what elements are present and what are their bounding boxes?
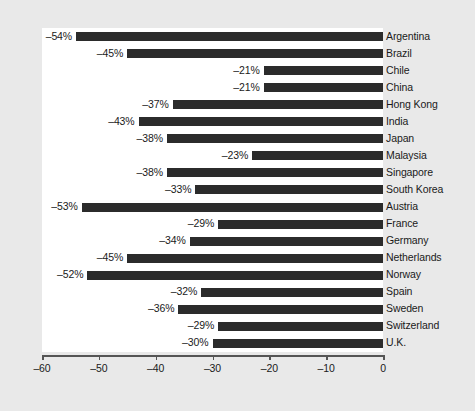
bar-rect: [139, 117, 383, 126]
bar-row: –29%Switzerland: [42, 318, 475, 335]
bar-category-label: U.K.: [386, 334, 406, 351]
bar-category-label: Malaysia: [386, 147, 427, 164]
x-axis-tick-mark: [269, 355, 271, 360]
x-axis-tick-label: –40: [147, 362, 164, 374]
bar-category-label: Switzerland: [386, 317, 439, 334]
bar-rect: [127, 254, 383, 263]
bar-rect: [264, 66, 383, 75]
bar-value-label: –21%: [216, 79, 260, 96]
bar-row: –34%Germany: [42, 233, 475, 250]
bar-value-label: –29%: [170, 215, 214, 232]
bar-rect: [167, 168, 383, 177]
x-axis-tick-mark: [42, 355, 44, 360]
bar-rect: [190, 237, 383, 246]
bar-rect: [213, 339, 384, 348]
bar-row: –53%Austria: [42, 199, 475, 216]
bar-rect: [178, 305, 383, 314]
bar-rect: [76, 32, 383, 41]
bar-value-label: –34%: [142, 232, 186, 249]
bar-row: –52%Norway: [42, 267, 475, 284]
bar-category-label: Spain: [386, 283, 412, 300]
bar-row: –21%China: [42, 79, 475, 96]
bar-rect: [218, 220, 383, 229]
bar-row: –45%Brazil: [42, 45, 475, 62]
x-axis-tick-label: –30: [204, 362, 221, 374]
bar-rect: [264, 83, 383, 92]
bar-value-label: –45%: [79, 249, 123, 266]
bar-row: –30%U.K.: [42, 335, 475, 352]
bar-value-label: –23%: [204, 147, 248, 164]
bar-category-label: Sweden: [386, 300, 423, 317]
bar-row: –36%Sweden: [42, 301, 475, 318]
bar-chart-figure: –54%Argentina–45%Brazil–21%Chile–21%Chin…: [0, 0, 475, 411]
bar-category-label: Norway: [386, 266, 421, 283]
bar-rect: [173, 100, 383, 109]
bar-category-label: Singapore: [386, 164, 433, 181]
bar-value-label: –45%: [79, 45, 123, 62]
bar-row: –21%Chile: [42, 62, 475, 79]
x-axis-tick-mark: [326, 355, 328, 360]
bar-category-label: China: [386, 79, 413, 96]
bar-row: –38%Japan: [42, 130, 475, 147]
bar-rect: [167, 134, 383, 143]
x-axis-tick-label: –10: [318, 362, 335, 374]
bar-rect: [252, 151, 383, 160]
bar-row: –54%Argentina: [42, 28, 475, 45]
bar-rows-container: –54%Argentina–45%Brazil–21%Chile–21%Chin…: [42, 28, 475, 352]
bar-category-label: South Korea: [386, 181, 443, 198]
bar-value-label: –21%: [216, 62, 260, 79]
x-axis-tick-mark: [213, 355, 215, 360]
bar-row: –38%Singapore: [42, 164, 475, 181]
bar-row: –29%France: [42, 216, 475, 233]
bar-rect: [87, 271, 383, 280]
bar-rect: [195, 185, 383, 194]
bar-row: –45%Netherlands: [42, 250, 475, 267]
bar-rect: [218, 322, 383, 331]
bar-category-label: Chile: [386, 62, 409, 79]
x-axis-tick-mark: [383, 355, 385, 360]
bar-category-label: France: [386, 215, 418, 232]
bar-category-label: India: [386, 113, 408, 130]
x-axis-tick-mark: [99, 355, 101, 360]
bar-category-label: Argentina: [386, 28, 430, 45]
bar-category-label: Germany: [386, 232, 428, 249]
bar-value-label: –54%: [28, 28, 72, 45]
bar-value-label: –29%: [170, 317, 214, 334]
bar-value-label: –36%: [130, 300, 174, 317]
bar-row: –37%Hong Kong: [42, 96, 475, 113]
bar-row: –32%Spain: [42, 284, 475, 301]
bar-value-label: –32%: [153, 283, 197, 300]
bar-row: –43%India: [42, 113, 475, 130]
x-axis-tick-label: 0: [380, 362, 386, 374]
bar-value-label: –53%: [34, 198, 78, 215]
bar-category-label: Brazil: [386, 45, 412, 62]
bar-rect: [82, 203, 383, 212]
bar-category-label: Austria: [386, 198, 418, 215]
bar-value-label: –33%: [147, 181, 191, 198]
x-axis-tick-label: –50: [90, 362, 107, 374]
bar-rect: [201, 288, 383, 297]
x-axis-tick-mark: [156, 355, 158, 360]
x-axis-tick-label: –60: [33, 362, 50, 374]
bar-value-label: –38%: [119, 130, 163, 147]
bar-row: –33%South Korea: [42, 181, 475, 198]
bar-value-label: –37%: [125, 96, 169, 113]
bar-value-label: –38%: [119, 164, 163, 181]
bar-value-label: –52%: [39, 266, 83, 283]
bar-category-label: Hong Kong: [386, 96, 438, 113]
bar-category-label: Netherlands: [386, 249, 442, 266]
x-axis-tick-label: –20: [261, 362, 278, 374]
bar-value-label: –43%: [91, 113, 135, 130]
bar-value-label: –30%: [165, 334, 209, 351]
bar-row: –23%Malaysia: [42, 147, 475, 164]
bar-rect: [127, 49, 383, 58]
bar-category-label: Japan: [386, 130, 414, 147]
